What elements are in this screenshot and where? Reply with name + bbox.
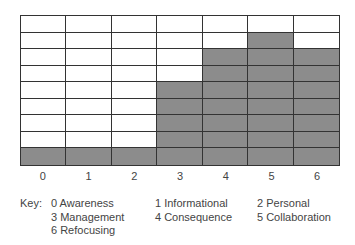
legend-item: 2 Personal — [257, 197, 310, 211]
grid-cell — [157, 49, 202, 66]
grid-cell — [21, 115, 66, 132]
grid-cell — [66, 115, 111, 132]
legend-item: 6 Refocusing — [51, 224, 115, 238]
bar-cell-filled — [294, 132, 339, 149]
grid-cell — [66, 99, 111, 116]
bar-cell-filled — [248, 115, 293, 132]
bar-cell-filled — [203, 66, 248, 83]
x-tick-label: 6 — [294, 170, 340, 182]
grid-cell — [66, 132, 111, 149]
legend-item: 0 Awareness — [51, 197, 114, 211]
bar-cell-filled — [203, 148, 248, 165]
bar-cell-filled — [203, 49, 248, 66]
grid-cell — [21, 33, 66, 50]
grid-cell — [157, 66, 202, 83]
grid-cell — [294, 33, 339, 50]
grid-cell — [21, 132, 66, 149]
grid-cell — [21, 99, 66, 116]
legend-title: Key: — [20, 197, 42, 211]
grid-cell — [112, 16, 157, 33]
bar-cell-filled — [248, 82, 293, 99]
grid-cell — [248, 16, 293, 33]
bar-cell-filled — [294, 82, 339, 99]
bar-cell-filled — [248, 66, 293, 83]
bar-cell-filled — [203, 82, 248, 99]
x-axis-ticks: 0123456 — [20, 170, 340, 182]
bar-cell-filled — [294, 115, 339, 132]
grid-cell — [66, 82, 111, 99]
grid-cell — [21, 16, 66, 33]
bar-cell-filled — [157, 115, 202, 132]
grid-cell — [21, 66, 66, 83]
bar-cell-filled — [203, 115, 248, 132]
grid-cell — [112, 115, 157, 132]
bar-cell-filled — [21, 148, 66, 165]
bar-cell-filled — [248, 99, 293, 116]
bar-cell-filled — [157, 99, 202, 116]
grid-cell — [21, 49, 66, 66]
grid-cell — [21, 82, 66, 99]
bar-cell-filled — [112, 148, 157, 165]
legend-item: 4 Consequence — [155, 211, 232, 225]
grid-cell — [66, 66, 111, 83]
bar-cell-filled — [248, 132, 293, 149]
bar-cell-filled — [66, 148, 111, 165]
bar-cell-filled — [294, 49, 339, 66]
grid-cell — [66, 49, 111, 66]
grid-cell — [112, 49, 157, 66]
legend-item: 1 Informational — [155, 197, 228, 211]
x-tick-label: 5 — [249, 170, 295, 182]
x-tick-label: 3 — [157, 170, 203, 182]
grid-cell — [66, 33, 111, 50]
legend-item: 3 Management — [51, 211, 124, 225]
bar-cell-filled — [157, 148, 202, 165]
bar-cell-filled — [203, 99, 248, 116]
grid-cell — [112, 33, 157, 50]
bar-cell-filled — [157, 132, 202, 149]
grid-cell — [112, 66, 157, 83]
grid-cell — [203, 33, 248, 50]
bar-cell-filled — [248, 148, 293, 165]
bar-cell-filled — [203, 132, 248, 149]
bar-cell-filled — [294, 66, 339, 83]
grid-cell — [112, 132, 157, 149]
chart-grid — [20, 15, 340, 166]
x-tick-label: 2 — [111, 170, 157, 182]
x-tick-label: 4 — [203, 170, 249, 182]
x-tick-label: 0 — [20, 170, 66, 182]
grid-cell — [294, 16, 339, 33]
bar-cell-filled — [248, 33, 293, 50]
bar-cell-filled — [294, 99, 339, 116]
bar-cell-filled — [294, 148, 339, 165]
legend-item: 5 Collaboration — [257, 211, 331, 225]
grid-cell — [157, 33, 202, 50]
grid-cell — [203, 16, 248, 33]
grid-cell — [112, 82, 157, 99]
x-tick-label: 1 — [66, 170, 112, 182]
bar-cell-filled — [248, 49, 293, 66]
grid-cell — [157, 16, 202, 33]
grid-cell — [112, 99, 157, 116]
grid-cell — [66, 16, 111, 33]
bar-cell-filled — [157, 82, 202, 99]
